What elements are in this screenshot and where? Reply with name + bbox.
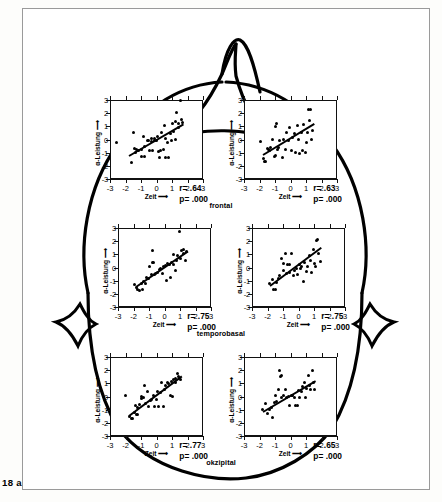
- x-tick: [157, 179, 158, 183]
- x-tick-label: -1: [269, 184, 281, 193]
- x-tick-label: 1: [174, 312, 186, 321]
- x-tick: [134, 307, 135, 311]
- x-tick-label: -2: [120, 184, 132, 193]
- x-tick-top: [188, 96, 189, 100]
- x-tick-top: [306, 96, 307, 100]
- x-tick-label: 0: [285, 441, 297, 450]
- x-tick-label: 1: [300, 184, 312, 193]
- x-tick: [275, 179, 276, 183]
- r-value: r= .64: [179, 183, 208, 194]
- data-point: [282, 269, 285, 272]
- data-point: [317, 252, 320, 255]
- data-point: [280, 374, 283, 377]
- x-tick-label: 0: [159, 312, 171, 321]
- x-tick-top: [126, 96, 127, 100]
- x-tick: [283, 307, 284, 311]
- x-tick-top: [126, 353, 127, 357]
- x-tick: [260, 436, 261, 440]
- r-value: r= .77: [179, 440, 208, 451]
- x-tick: [172, 179, 173, 183]
- x-tick: [306, 179, 307, 183]
- x-tick-top: [157, 353, 158, 357]
- r-value: r= .65: [313, 440, 342, 451]
- x-tick-top: [244, 96, 245, 100]
- x-tick-label: 0: [293, 312, 305, 321]
- data-point: [174, 120, 177, 123]
- x-tick-label: -1: [277, 312, 289, 321]
- x-axis-title: Zeit ⟶: [244, 450, 337, 458]
- data-point: [296, 273, 299, 276]
- scatter-panel-grid: 3210-1-2-3-3-2-10123r= .64p= .000α-Leist…: [0, 0, 442, 502]
- x-tick-top: [196, 224, 197, 228]
- x-tick-top: [337, 96, 338, 100]
- x-tick-top: [283, 224, 284, 228]
- x-tick-top: [322, 353, 323, 357]
- scatter-panel-temporobasal-left: 3210-1-2-3-3-2-10123r= .75p= .000α-Leist…: [93, 222, 220, 335]
- x-tick-top: [314, 224, 315, 228]
- x-tick-top: [118, 224, 119, 228]
- x-tick: [252, 307, 253, 311]
- x-tick-top: [203, 96, 204, 100]
- x-tick-top: [260, 353, 261, 357]
- data-point: [302, 280, 305, 283]
- data-point: [161, 272, 164, 275]
- data-point: [284, 388, 287, 391]
- x-tick-label: -1: [135, 441, 147, 450]
- data-point: [143, 155, 146, 158]
- x-tick: [157, 436, 158, 440]
- data-point: [293, 396, 296, 399]
- data-point: [319, 260, 322, 263]
- data-point: [155, 398, 158, 401]
- data-point: [284, 252, 287, 255]
- scatter-panel-frontal-right: 3210-1-2-3-3-2-10123r= .63p= .000α-Leist…: [219, 94, 346, 207]
- x-tick-top: [110, 353, 111, 357]
- y-axis-title: α-Leistung ⟶: [228, 365, 236, 435]
- x-tick-label: -3: [238, 441, 250, 450]
- x-tick-top: [134, 224, 135, 228]
- y-axis-line: [244, 357, 245, 436]
- data-point: [158, 156, 161, 159]
- x-tick: [244, 436, 245, 440]
- x-tick-label: -2: [262, 312, 274, 321]
- x-tick: [126, 179, 127, 183]
- x-tick: [299, 307, 300, 311]
- scatter-panel-temporobasal-right: 3210-1-2-3-3-2-10123r= .75p= .000α-Leist…: [227, 222, 354, 335]
- x-tick: [118, 307, 119, 311]
- x-tick-top: [299, 224, 300, 228]
- y-tick-label: 3: [237, 224, 250, 233]
- data-point: [162, 405, 165, 408]
- x-tick-label: -2: [254, 441, 266, 450]
- y-axis-line: [252, 228, 253, 307]
- r-value: r= .75: [321, 311, 350, 322]
- x-axis-title: Zeit ⟶: [252, 321, 345, 329]
- data-point: [309, 108, 312, 111]
- x-tick-label: -3: [112, 312, 124, 321]
- data-point: [297, 138, 300, 141]
- x-tick-label: -1: [143, 312, 155, 321]
- x-tick-top: [110, 96, 111, 100]
- x-tick: [141, 179, 142, 183]
- x-tick: [110, 179, 111, 183]
- data-point: [288, 263, 291, 266]
- x-tick-top: [291, 96, 292, 100]
- x-tick: [291, 436, 292, 440]
- y-axis-title: α-Leistung ⟶: [228, 108, 236, 178]
- x-tick-top: [211, 224, 212, 228]
- x-tick: [165, 307, 166, 311]
- y-tick-label: 3: [229, 96, 242, 105]
- x-tick: [275, 436, 276, 440]
- data-point: [310, 138, 313, 141]
- x-tick-top: [180, 224, 181, 228]
- x-tick-label: -1: [135, 184, 147, 193]
- data-point: [264, 160, 267, 163]
- scatter-panel-okzipital-right: 3210-1-2-3-3-2-10123r= .65p= .000α-Leist…: [219, 351, 346, 464]
- y-axis-title: α-Leistung ⟶: [102, 236, 110, 306]
- data-point: [162, 148, 165, 151]
- data-point: [274, 394, 277, 397]
- data-point: [142, 135, 145, 138]
- figure-page: 3210-1-2-3-3-2-10123r= .64p= .000α-Leist…: [0, 0, 442, 502]
- r-value: r= .63: [313, 183, 342, 194]
- data-point: [284, 148, 287, 151]
- data-point: [304, 151, 307, 154]
- y-tick-label: 3: [103, 224, 116, 233]
